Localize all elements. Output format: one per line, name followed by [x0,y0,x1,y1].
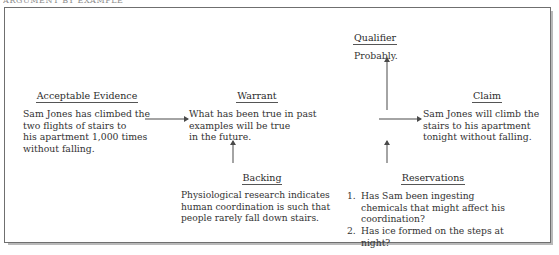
node-title-wrap: Reservations [347,166,519,185]
node-title-backing: Backing [242,172,283,185]
reservation-text: Has Sam been ingesting chemicals that mi… [361,190,505,224]
reservation-number: 2. [347,225,356,237]
figure-frame: Acceptable Evidence Sam Jones has climbe… [4,7,551,243]
node-warrant: Warrant What has been true in past examp… [189,84,325,143]
node-backing: Backing Physiological research indicates… [181,166,343,225]
running-head: ARGUMENT BY EXAMPLE [3,0,124,4]
node-claim: Claim Sam Jones will climb the stairs to… [423,84,551,143]
arrow-warrant-to-claim-icon [379,115,421,123]
node-body-warrant: What has been true in past examples will… [189,108,325,143]
node-body-qualifier: Probably. [354,50,463,62]
arrow-shaft [387,58,388,110]
arrow-head [417,116,422,122]
reservation-text: Has ice formed on the steps at night? [361,225,504,248]
node-title-wrap: Qualifier [353,26,463,45]
arrow-evidence-to-warrant-icon [145,115,188,123]
reservations-list: 1.Has Sam been ingesting chemicals that … [347,190,519,248]
node-title-reservations: Reservations [401,172,465,185]
reservation-item: 2.Has ice formed on the steps at night? [347,225,519,248]
node-title-wrap: Backing [181,166,343,185]
node-title-wrap: Acceptable Evidence [23,84,151,103]
arrow-head [384,140,390,145]
node-reservations: Reservations 1.Has Sam been ingesting ch… [347,166,519,249]
reservation-item: 1.Has Sam been ingesting chemicals that … [347,190,519,225]
arrow-shaft [145,119,188,120]
arrow-backing-to-warrant-icon [229,141,237,163]
reservation-number: 1. [347,190,356,202]
arrow-claim-to-qualifier-icon [383,58,391,110]
node-title-acceptable-evidence: Acceptable Evidence [36,90,139,103]
node-body-acceptable-evidence: Sam Jones has climbed the two flights of… [23,108,151,154]
node-title-warrant: Warrant [236,90,277,103]
node-body-backing: Physiological research indicates human c… [181,190,343,225]
arrow-head [384,57,390,62]
node-title-qualifier: Qualifier [353,32,397,45]
node-body-claim: Sam Jones will climb the stairs to his a… [423,108,551,143]
node-title-wrap: Warrant [189,84,325,103]
arrow-shaft [379,119,421,120]
node-title-claim: Claim [472,90,502,103]
node-qualifier: Qualifier Probably. [353,26,463,62]
node-title-wrap: Claim [423,84,551,103]
arrow-head [184,116,189,122]
arrow-reservations-to-claim-icon [383,141,391,163]
arrow-head [230,140,236,145]
node-acceptable-evidence: Acceptable Evidence Sam Jones has climbe… [23,84,151,154]
